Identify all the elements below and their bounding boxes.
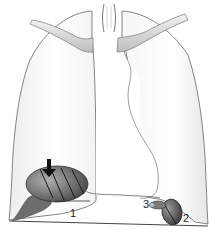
chest-illustration: 1 2 3 xyxy=(0,0,217,232)
label-3: 3 xyxy=(143,198,149,210)
label-2: 2 xyxy=(183,212,189,224)
trachea xyxy=(103,4,116,32)
nodule-3 xyxy=(149,201,166,209)
label-1: 1 xyxy=(70,207,76,219)
chest-diagram: 1 2 3 xyxy=(0,0,217,232)
